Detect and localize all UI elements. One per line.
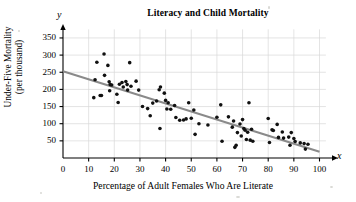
scan-speck — [40, 192, 42, 194]
chart-figure: Literacy and Child Mortality y x Under-F… — [0, 0, 356, 202]
axis-ticks — [60, 38, 320, 162]
x-tick-label: 80 — [255, 164, 281, 174]
y-axis-symbol: y — [57, 9, 61, 20]
x-axis-symbol: x — [337, 150, 341, 161]
y-tick-label: 100 — [30, 118, 56, 128]
y-tick-label: 350 — [30, 32, 56, 42]
y-tick-label: 50 — [30, 135, 56, 145]
scan-speck — [268, 6, 270, 9]
y-tick-label: 250 — [30, 67, 56, 77]
x-tick-label: 20 — [101, 164, 127, 174]
x-tick-label: 90 — [281, 164, 307, 174]
x-tick-label: 100 — [307, 164, 333, 174]
axes — [60, 24, 338, 161]
y-tick-label: 150 — [30, 101, 56, 111]
x-tick-label: 0 — [50, 164, 76, 174]
gridlines — [63, 29, 326, 158]
y-tick-label: 200 — [30, 84, 56, 94]
x-tick-label: 40 — [153, 164, 179, 174]
x-tick-label: 10 — [76, 164, 102, 174]
scan-speck — [236, 196, 240, 198]
x-axis-label: Percentage of Adult Females Who Are Lite… — [38, 180, 328, 191]
chart-title: Literacy and Child Mortality — [118, 8, 298, 18]
y-axis-label: Under-Five Mortality (per thousand) — [3, 7, 25, 127]
scan-speck — [330, 186, 333, 188]
scan-speck — [18, 30, 20, 32]
x-tick-label: 50 — [178, 164, 204, 174]
y-tick-label: 300 — [30, 50, 56, 60]
data-points — [92, 52, 310, 151]
x-tick-label: 60 — [204, 164, 230, 174]
x-tick-label: 30 — [127, 164, 153, 174]
x-tick-label: 70 — [230, 164, 256, 174]
